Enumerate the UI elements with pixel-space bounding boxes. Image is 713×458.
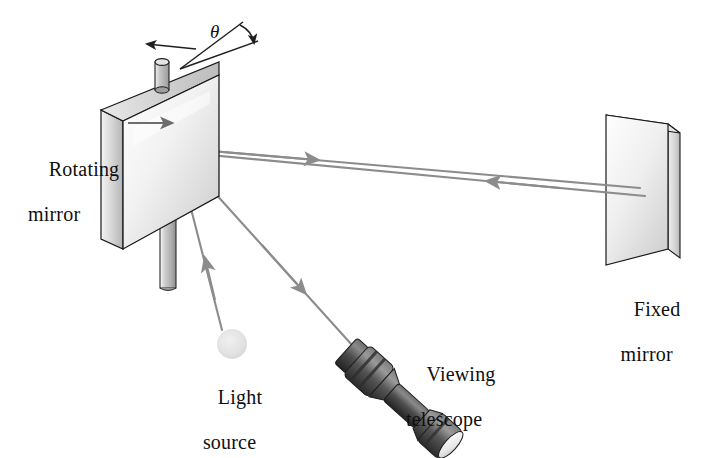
rotation-direction-arrow <box>147 44 196 49</box>
ray-arrow-to-rotating <box>487 181 560 188</box>
light-ray-group <box>176 148 645 345</box>
fixed-mirror-side-edge <box>668 124 680 258</box>
pivot-cylinder-body <box>155 62 169 90</box>
label-fixed-mirror-line1: Fixed <box>634 298 681 320</box>
angle-arc-arrow <box>240 25 254 43</box>
label-viewing-telescope: Viewing telescope <box>406 341 496 458</box>
label-light-source: Light source <box>197 364 262 458</box>
ray-arrow-source <box>205 258 215 300</box>
fixed-mirror-face <box>606 115 668 265</box>
ray-fixed-to-rotating <box>178 152 645 196</box>
label-rotating-mirror-line2: mirror <box>28 203 119 225</box>
label-viewing-telescope-line2: telescope <box>406 408 496 430</box>
light-source-bulb <box>217 329 247 359</box>
label-light-source-line1: Light <box>218 386 262 408</box>
label-rotating-mirror: Rotating mirror <box>28 136 119 270</box>
diagram-canvas: Rotating mirror Fixed mirror Light sourc… <box>0 0 713 458</box>
label-light-source-line2: source <box>197 431 262 453</box>
pivot-cylinder-top <box>155 59 169 66</box>
support-post-foot <box>160 288 176 291</box>
ray-arrow-telescope <box>262 245 305 293</box>
label-viewing-telescope-line1: Viewing <box>426 363 495 385</box>
rotating-mirror-pivot-cylinder <box>155 59 169 94</box>
label-fixed-mirror: Fixed mirror <box>613 276 680 410</box>
label-angle-theta: θ <box>210 21 220 42</box>
pivot-cylinder-base <box>155 87 169 93</box>
light-source-graphic <box>217 329 247 359</box>
label-fixed-mirror-line2: mirror <box>613 343 680 365</box>
label-rotating-mirror-line1: Rotating <box>49 158 120 180</box>
fixed-mirror-graphic <box>606 115 680 265</box>
